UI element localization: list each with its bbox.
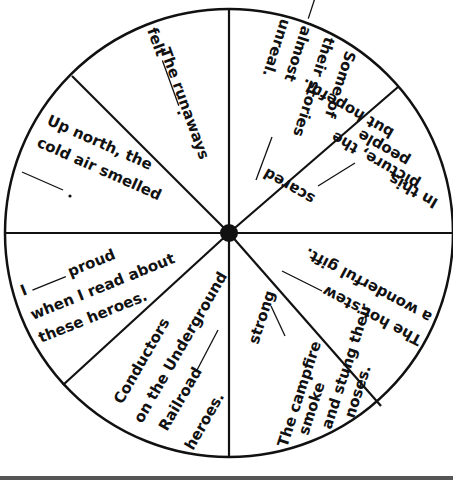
bottom-rule — [0, 476, 453, 480]
spinner-wheel: The runaways felt . Some of their storie… — [0, 0, 453, 482]
answer-blank — [308, 0, 320, 19]
center-hub[interactable] — [220, 224, 238, 242]
period-dot — [68, 194, 71, 197]
